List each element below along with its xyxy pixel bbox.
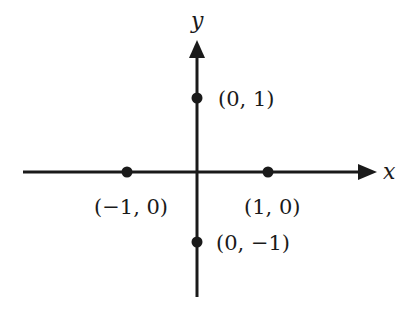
point-marker-icon (192, 237, 203, 248)
y-axis-label: y (190, 8, 204, 33)
point-label: (0, −1) (216, 231, 290, 255)
point-marker-icon (263, 167, 274, 178)
x-axis-label: x (383, 159, 396, 184)
x-axis-arrow-icon (358, 164, 377, 180)
y-axis: y (189, 8, 205, 297)
point-1-0: (1, 0) (244, 167, 300, 220)
y-axis-arrow-icon (189, 40, 205, 58)
point-label: (1, 0) (244, 195, 300, 219)
point-neg1-0: (−1, 0) (94, 167, 168, 220)
coordinate-plane-diagram: x y (0, 1) (−1, 0) (1, 0) (0, −1) (0, 0, 417, 317)
point-marker-icon (192, 93, 203, 104)
point-marker-icon (122, 167, 133, 178)
point-label: (−1, 0) (94, 195, 168, 219)
point-0-1: (0, 1) (192, 87, 275, 111)
x-axis: x (23, 159, 396, 184)
point-label: (0, 1) (218, 87, 274, 111)
point-0-neg1: (0, −1) (192, 231, 291, 255)
